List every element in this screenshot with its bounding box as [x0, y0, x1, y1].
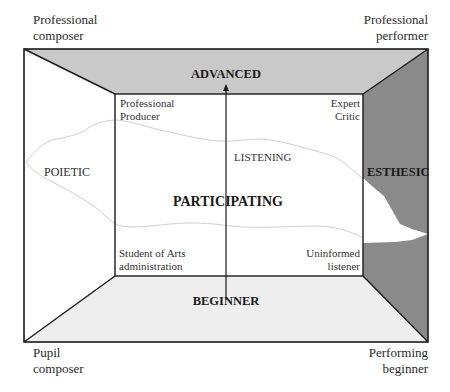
axis-label-advanced: ADVANCED	[176, 66, 276, 82]
inner-label-line: Uninformed	[290, 247, 360, 260]
inner-label-line: Student of Arts	[119, 247, 186, 260]
region-label-esthesic: ESTHESIC	[367, 164, 430, 180]
corner-label-line: composer	[33, 28, 97, 44]
corner-label-bottom-left: Pupil composer	[33, 345, 84, 377]
inner-label-top-right: Expert Critic	[300, 97, 360, 123]
inner-label-top-left: Professional Producer	[120, 97, 174, 123]
inner-label-bottom-right: Uninformed listener	[290, 247, 360, 273]
region-label-listening: LISTENING	[234, 151, 291, 164]
corner-label-line: Performing	[330, 345, 428, 361]
corner-label-top-right: Professional performer	[330, 12, 428, 44]
axis-label-beginner: BEGINNER	[176, 293, 276, 309]
inner-label-line: listener	[290, 260, 360, 273]
inner-label-line: administration	[119, 260, 186, 273]
corner-label-line: composer	[33, 361, 84, 377]
corner-label-line: Professional	[33, 12, 97, 28]
corner-label-line: performer	[330, 28, 428, 44]
inner-label-bottom-left: Student of Arts administration	[119, 247, 186, 273]
corner-label-line: beginner	[330, 361, 428, 377]
inner-label-line: Professional	[120, 97, 174, 110]
region-label-poietic: POIETIC	[44, 164, 90, 180]
region-label-participating: PARTICIPATING	[173, 194, 283, 210]
corner-label-line: Professional	[330, 12, 428, 28]
inner-label-line: Producer	[120, 110, 174, 123]
corner-label-top-left: Professional composer	[33, 12, 97, 44]
corner-label-bottom-right: Performing beginner	[330, 345, 428, 377]
inner-label-line: Critic	[300, 110, 360, 123]
inner-label-line: Expert	[300, 97, 360, 110]
corner-label-line: Pupil	[33, 345, 84, 361]
